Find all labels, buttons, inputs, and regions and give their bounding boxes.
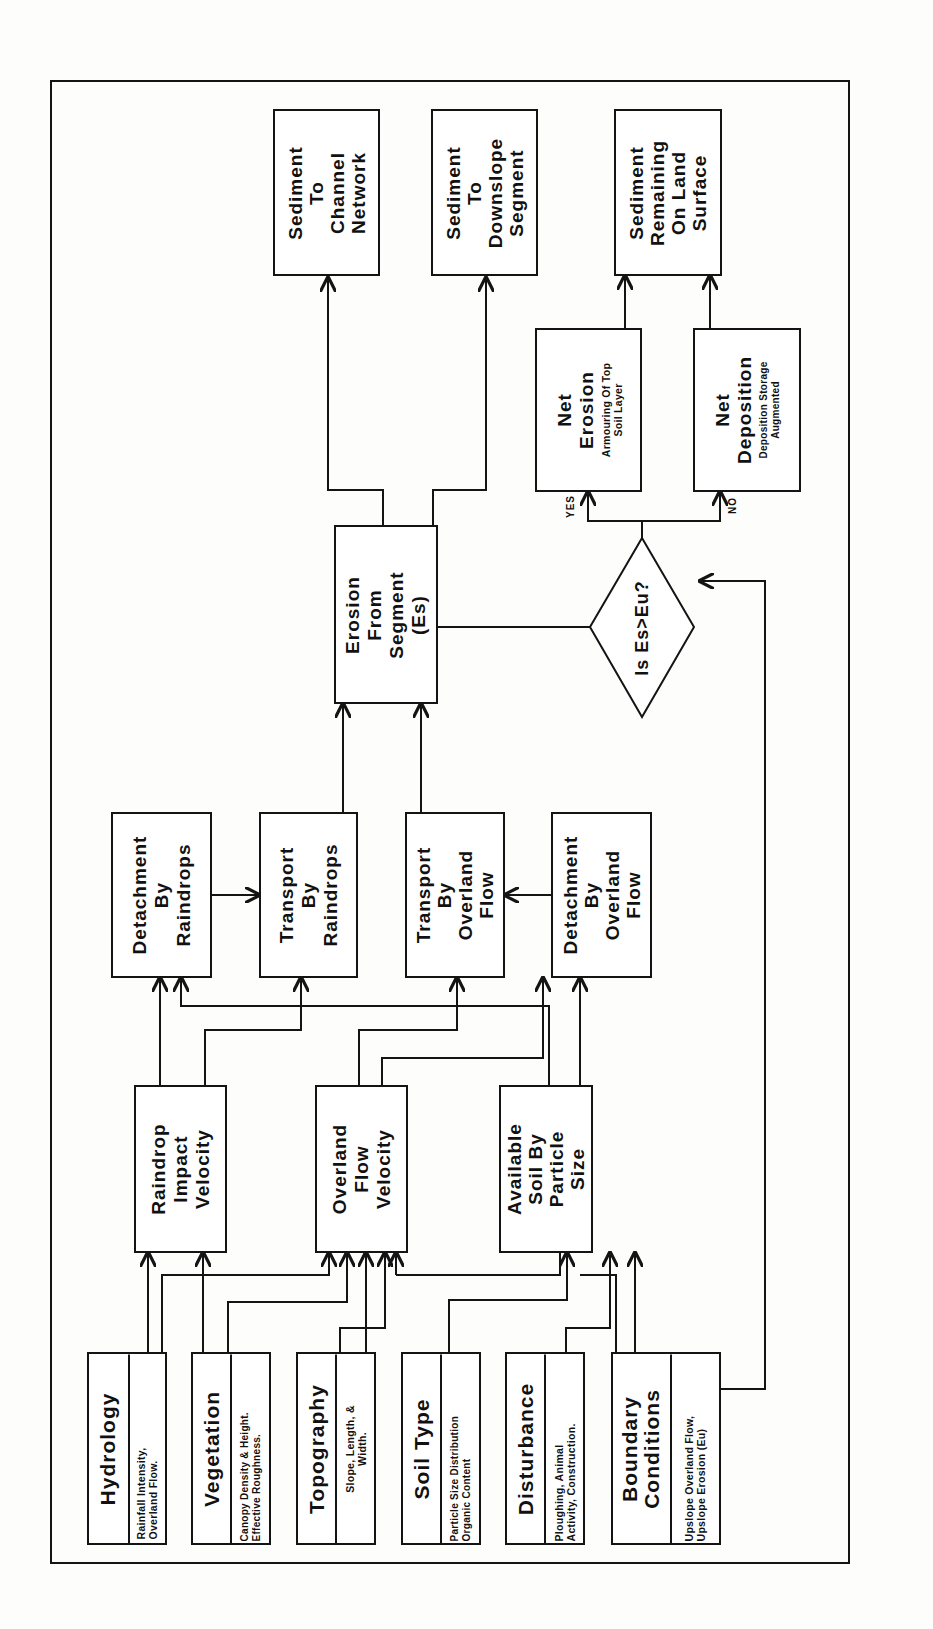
dbr-line-2: By xyxy=(151,882,173,908)
soil-type-detail-2: Organic Content xyxy=(461,1354,473,1541)
decision-es-gt-eu: Is Es>Eu? xyxy=(590,538,694,717)
stcn-line-4: Network xyxy=(348,152,369,234)
net-deposition-title-2: Deposition xyxy=(734,356,756,464)
stcn-line-1: Sediment xyxy=(285,146,306,240)
input-disturbance: Disturbance Ploughing, Animal Activity, … xyxy=(505,1352,585,1545)
riv-line-1: Raindrop xyxy=(148,1123,170,1214)
net-erosion-detail-2: Soil Layer xyxy=(612,363,624,457)
yes-label: YES xyxy=(565,495,576,518)
dbof-line-3: Overland xyxy=(602,850,623,940)
disturbance-detail-1: Ploughing, Animal xyxy=(553,1354,565,1541)
asp-line-4: Size xyxy=(567,1148,588,1190)
sediment-to-downslope-segment: Sediment To Downslope Segment xyxy=(431,109,538,276)
transport-by-raindrops: Transport By Raindrops xyxy=(259,812,358,978)
erosion-from-segment: Erosion From Segment (Es) xyxy=(334,525,438,704)
input-vegetation: Vegetation Canopy Density & Height. Effe… xyxy=(191,1352,271,1545)
input-soil-type: Soil Type Particle Size Distribution Org… xyxy=(401,1352,481,1545)
dbof-line-2: By xyxy=(581,882,602,908)
input-topography: Topography Slope, Length, & Width. xyxy=(296,1352,376,1545)
riv-line-2: Impact xyxy=(170,1135,192,1202)
input-boundary-conditions: Boundary Conditions Upslope Overland Flo… xyxy=(611,1352,721,1545)
hydrology-detail-2: Overland Flow. xyxy=(147,1354,159,1539)
net-erosion-title-1: Net xyxy=(554,371,576,449)
decision-text: Is Es>Eu? xyxy=(631,580,653,676)
srls-line-2: Remaining xyxy=(647,139,668,245)
tbof-line-1: Transport xyxy=(413,847,434,944)
soil-type-detail-1: Particle Size Distribution xyxy=(449,1354,461,1541)
srls-line-4: Surface xyxy=(689,154,710,231)
vegetation-detail-2: Effective Roughness. xyxy=(251,1354,263,1541)
asp-line-3: Particle xyxy=(546,1131,567,1208)
efs-line-1: Erosion xyxy=(342,576,364,654)
boundary-detail-1: Upslope Overland Flow, xyxy=(683,1354,695,1541)
tbof-line-2: By xyxy=(434,882,455,908)
net-deposition-detail-2: Augmented xyxy=(770,361,782,458)
boundary-detail-2: Upslope Erosion (Eu) xyxy=(695,1354,707,1541)
srls-line-1: Sediment xyxy=(626,146,647,240)
dbof-line-1: Detachment xyxy=(560,836,581,955)
stds-line-4: Segment xyxy=(506,149,527,236)
dbr-line-1: Detachment xyxy=(129,836,151,955)
net-erosion: Net Erosion Armouring Of Top Soil Layer xyxy=(535,328,642,492)
net-deposition-detail-1: Deposition Storage xyxy=(758,361,770,458)
stcn-line-3: Channel xyxy=(327,152,348,234)
net-deposition-title-1: Net xyxy=(712,356,734,464)
ofv-line-2: Flow xyxy=(351,1145,373,1192)
tbof-line-3: Overland xyxy=(455,850,476,940)
stds-line-3: Downslope xyxy=(485,137,506,247)
dbof-line-4: Flow xyxy=(623,871,644,918)
hydrology-detail-1: Rainfall Intensity, xyxy=(135,1354,147,1539)
stds-line-2: To xyxy=(464,181,485,205)
vegetation-detail-1: Canopy Density & Height. xyxy=(239,1354,251,1541)
srls-line-3: On Land xyxy=(668,150,689,234)
detachment-by-overland-flow: Detachment By Overland Flow xyxy=(551,812,652,978)
asp-line-1: Available xyxy=(504,1123,525,1215)
boundary-title-2: Conditions xyxy=(641,1389,663,1509)
tbr-line-3: Raindrops xyxy=(320,844,342,947)
net-erosion-detail-1: Armouring Of Top xyxy=(600,363,612,457)
available-soil-by-particle-size: Available Soil By Particle Size xyxy=(499,1085,593,1253)
efs-line-3: Segment xyxy=(386,571,408,658)
stcn-line-2: To xyxy=(306,181,327,205)
input-hydrology: Hydrology Rainfall Intensity, Overland F… xyxy=(87,1352,167,1545)
efs-line-4: (Es) xyxy=(408,595,430,635)
topography-detail-2: Width. xyxy=(356,1354,368,1543)
detachment-by-raindrops: Detachment By Raindrops xyxy=(111,812,212,978)
net-erosion-title-2: Erosion xyxy=(576,371,598,449)
overland-flow-velocity: Overland Flow Velocity xyxy=(315,1085,408,1253)
sediment-remaining-on-land-surface: Sediment Remaining On Land Surface xyxy=(614,109,722,276)
no-label: NO xyxy=(727,497,738,514)
disturbance-detail-2: Activity, Construction. xyxy=(565,1354,577,1541)
topography-detail-1: Slope, Length, & xyxy=(344,1354,356,1543)
hydrology-title: Hydrology xyxy=(97,1392,119,1505)
stds-line-1: Sediment xyxy=(443,146,464,240)
tbr-line-1: Transport xyxy=(276,847,298,944)
soil-type-title: Soil Type xyxy=(411,1398,433,1499)
disturbance-title: Disturbance xyxy=(515,1382,537,1514)
vegetation-title: Vegetation xyxy=(201,1390,223,1506)
raindrop-impact-velocity: Raindrop Impact Velocity xyxy=(134,1085,227,1253)
ofv-line-1: Overland xyxy=(329,1124,351,1214)
efs-line-2: From xyxy=(364,589,386,641)
tbof-line-4: Flow xyxy=(476,871,497,918)
boundary-title-1: Boundary xyxy=(619,1396,641,1502)
topography-title: Topography xyxy=(306,1384,328,1514)
dbr-line-3: Raindrops xyxy=(173,844,195,947)
riv-line-3: Velocity xyxy=(192,1129,214,1209)
ofv-line-3: Velocity xyxy=(373,1129,395,1209)
asp-line-2: Soil By xyxy=(525,1133,546,1204)
sediment-to-channel-network: Sediment To Channel Network xyxy=(273,109,380,276)
tbr-line-2: By xyxy=(298,882,320,908)
transport-by-overland-flow: Transport By Overland Flow xyxy=(405,812,505,978)
net-deposition: Net Deposition Deposition Storage Augmen… xyxy=(693,328,801,492)
